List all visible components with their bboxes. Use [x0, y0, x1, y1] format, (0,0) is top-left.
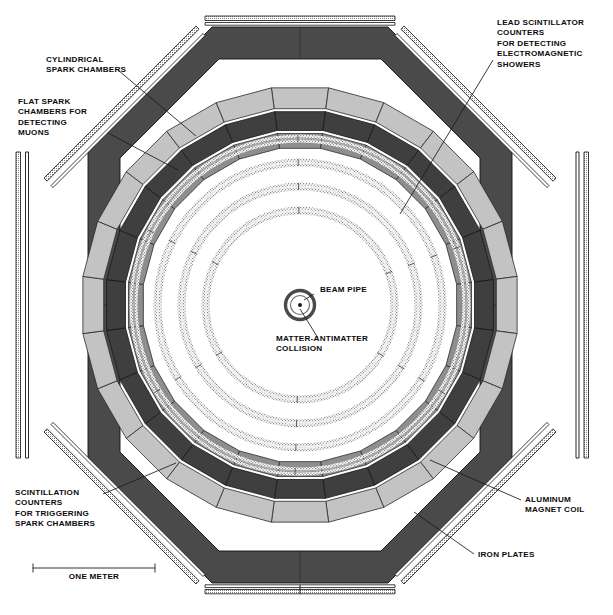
ring-segment	[275, 479, 326, 498]
ring-segment	[271, 88, 328, 109]
ring-segment	[271, 501, 328, 522]
label-one-meter: ONE METER	[33, 572, 155, 582]
detector-diagram: CYLINDRICAL SPARK CHAMBERS FLAT SPARK CH…	[0, 0, 613, 615]
ring-segment	[496, 276, 517, 333]
label-scintillation-counters: SCINTILLATION COUNTERS FOR TRIGGERING SP…	[15, 488, 95, 530]
label-flat-spark-chambers: FLAT SPARK CHAMBERS FOR DETECTING MUONS	[18, 97, 87, 139]
label-lead-scintillator-counters: LEAD SCINTILLATOR COUNTERS FOR DETECTING…	[497, 18, 584, 70]
ring-segment	[107, 280, 126, 331]
ring-segment	[83, 276, 104, 333]
beam-pipe	[286, 291, 315, 320]
label-beam-pipe: BEAM PIPE	[320, 285, 367, 295]
collision-point	[298, 303, 302, 307]
ring-segment	[275, 112, 326, 131]
label-iron-plates: IRON PLATES	[478, 550, 535, 560]
label-aluminum-magnet-coil: ALUMINUM MAGNET COIL	[525, 495, 584, 516]
ring-segment	[474, 280, 493, 331]
label-matter-antimatter-collision: MATTER-ANTIMATTER COLLISION	[276, 334, 368, 355]
label-cylindrical-spark-chambers: CYLINDRICAL SPARK CHAMBERS	[46, 55, 126, 76]
